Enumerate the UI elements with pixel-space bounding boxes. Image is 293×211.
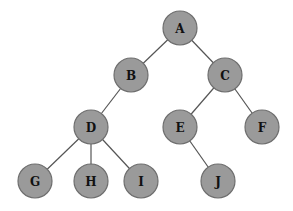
node-label: E (175, 121, 184, 135)
tree-node-b: B (114, 58, 148, 92)
node-label: C (220, 69, 230, 83)
tree-node-g: G (18, 164, 52, 198)
tree-node-e: E (163, 110, 197, 144)
edges-layer (35, 28, 262, 181)
tree-node-f: F (245, 110, 279, 144)
tree-node-d: D (74, 110, 108, 144)
tree-node-c: C (208, 58, 242, 92)
node-label: A (174, 22, 185, 36)
tree-node-h: H (74, 164, 108, 198)
tree-diagram: ABCDEFGHIJ (0, 0, 293, 211)
node-label: F (258, 121, 267, 135)
node-label: G (30, 175, 40, 189)
nodes-layer: ABCDEFGHIJ (18, 11, 279, 198)
tree-node-a: A (163, 11, 197, 45)
node-label: J (214, 175, 221, 189)
node-label: D (86, 121, 96, 135)
tree-node-i: I (124, 164, 158, 198)
node-label: I (138, 175, 144, 189)
tree-node-j: J (201, 164, 235, 198)
node-label: B (126, 69, 136, 83)
node-label: H (85, 175, 96, 189)
